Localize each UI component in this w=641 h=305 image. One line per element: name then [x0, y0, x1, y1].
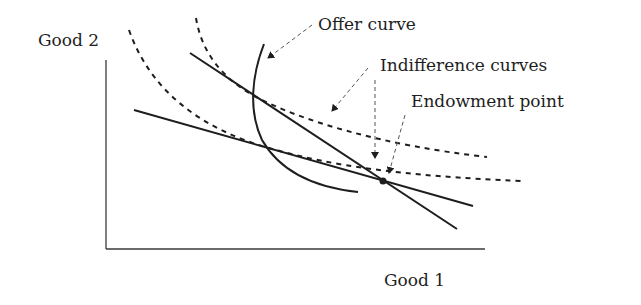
offer-curve-arrow	[268, 25, 312, 58]
endowment-point-label: Endowment point	[411, 91, 564, 111]
offer-curve-diagram: Good 2 Good 1 Offer curve Indifference c…	[0, 0, 641, 305]
upper-indifference-curve	[196, 18, 487, 157]
indifference-arrow-upper	[332, 68, 368, 111]
steep-budget-line	[190, 53, 457, 229]
endowment-point-arrow	[389, 115, 405, 173]
indifference-curves-label: Indifference curves	[380, 55, 547, 75]
endowment-point	[380, 178, 387, 185]
y-axis-label: Good 2	[38, 30, 99, 50]
offer-curve-label: Offer curve	[318, 14, 416, 34]
flat-budget-line	[134, 110, 473, 206]
x-axis-label: Good 1	[384, 270, 445, 290]
